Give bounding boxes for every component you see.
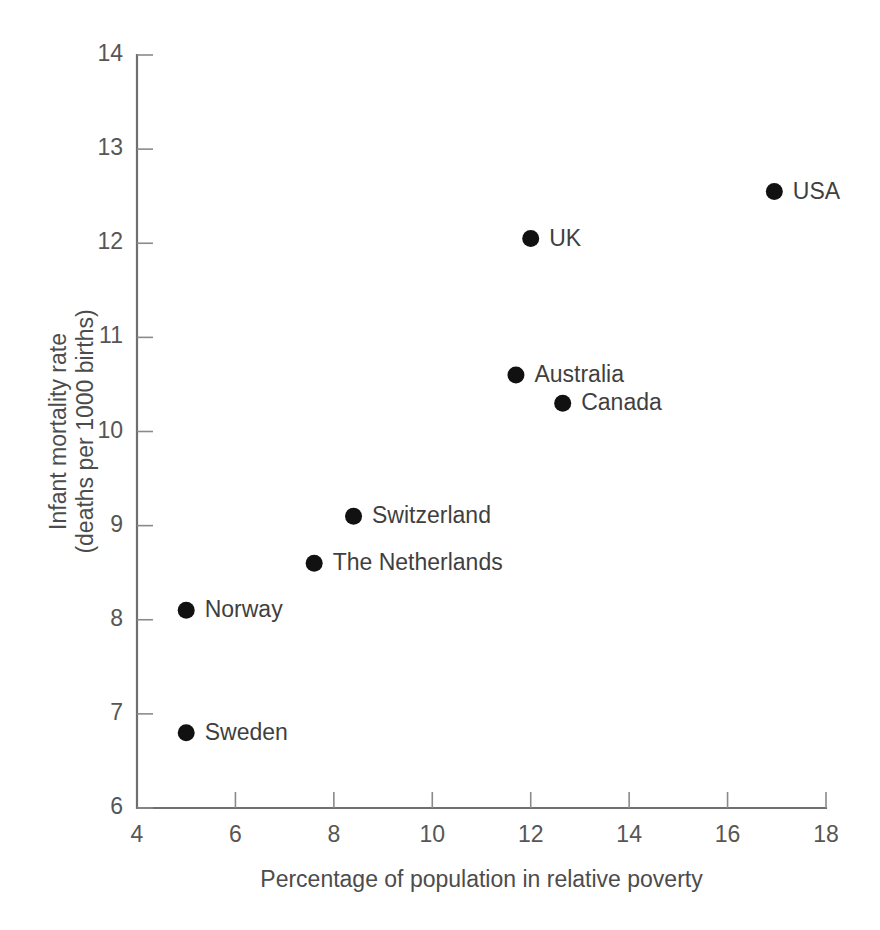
data-point-marker (178, 724, 195, 741)
data-point-marker (507, 367, 524, 384)
y-tick-label: 14 (97, 40, 123, 66)
y-tick-label: 13 (97, 134, 123, 160)
data-point-label: USA (793, 178, 841, 204)
data-point-label: Switzerland (372, 502, 491, 528)
y-tick-label: 7 (110, 699, 123, 725)
x-tick-label: 12 (518, 821, 544, 847)
x-tick-label: 4 (131, 821, 144, 847)
data-point-marker (306, 555, 323, 572)
data-point-marker (554, 395, 571, 412)
y-tick-label: 6 (110, 793, 123, 819)
y-axis-ticks: 67891011121314 (97, 40, 153, 819)
y-tick-label: 12 (97, 228, 123, 254)
axis-lines (137, 55, 826, 808)
y-tick-label: 8 (110, 605, 123, 631)
data-point-label: Norway (205, 596, 283, 622)
data-point-label: Sweden (205, 719, 288, 745)
x-tick-label: 10 (419, 821, 445, 847)
x-tick-label: 6 (229, 821, 242, 847)
x-axis-ticks: 4681012141618 (131, 792, 839, 847)
x-tick-label: 16 (715, 821, 741, 847)
data-point-label: The Netherlands (333, 549, 503, 575)
y-axis-title-line1: Infant mortality rate (45, 333, 71, 530)
x-tick-label: 18 (813, 821, 839, 847)
y-tick-label: 9 (110, 511, 123, 537)
x-axis-title: Percentage of population in relative pov… (260, 866, 703, 892)
y-tick-label: 11 (99, 322, 123, 348)
x-tick-label: 14 (616, 821, 642, 847)
data-point-marker (522, 230, 539, 247)
x-tick-label: 8 (327, 821, 340, 847)
data-points-group: SwedenNorwayThe NetherlandsSwitzerlandAu… (178, 178, 841, 745)
data-point-marker (178, 602, 195, 619)
data-point-marker (766, 183, 783, 200)
data-point-label: Australia (534, 361, 624, 387)
y-axis-title-line2: (deaths per 1000 births) (72, 309, 98, 553)
data-point-label: UK (549, 225, 582, 251)
data-point-label: Canada (581, 389, 662, 415)
axes-group (137, 55, 826, 808)
data-point-marker (345, 508, 362, 525)
y-tick-label: 10 (97, 417, 123, 443)
scatter-chart: 67891011121314 4681012141618 SwedenNorwa… (0, 0, 880, 930)
chart-canvas: 67891011121314 4681012141618 SwedenNorwa… (0, 0, 880, 930)
